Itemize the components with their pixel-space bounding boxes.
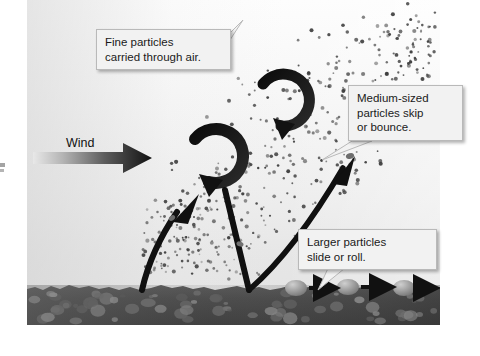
callout-fine-particles: Fine particles carried through air. [96, 29, 231, 70]
callout-tail-medium [322, 141, 372, 160]
wind-label: Wind [66, 136, 94, 150]
cropped-edge-mark [0, 163, 7, 174]
wind-erosion-illustration: Wind [27, 0, 440, 325]
callout-tails [27, 0, 440, 325]
callout-medium-particles: Medium-sized particles skip or bounce. [348, 85, 463, 141]
callout-larger-particles: Larger particles slide or roll. [298, 229, 437, 270]
